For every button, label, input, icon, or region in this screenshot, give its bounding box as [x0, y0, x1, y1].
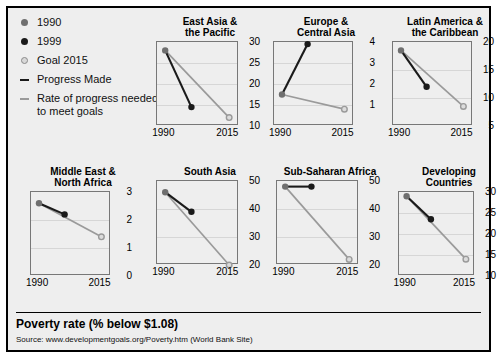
chart-title: Poverty rate (% below $1.08)	[16, 317, 481, 331]
point-1999	[423, 84, 429, 90]
panel-developing-countries: Developing Countries101520253019902015	[398, 166, 500, 291]
x-axis-tick-label: 2015	[216, 266, 238, 277]
progress-made-line	[407, 197, 431, 220]
y-axis-tick-label: 3	[112, 186, 132, 197]
plot-area: 510152019902015	[392, 41, 498, 141]
legend-item-goal-2015: Goal 2015	[16, 54, 166, 67]
x-axis-tick-label: 1990	[269, 127, 291, 138]
plot-area: 101520253019902015	[156, 41, 264, 141]
dot-gray-icon	[16, 16, 32, 29]
goal-2015-point	[461, 104, 467, 110]
y-axis-tick-label: 10	[474, 92, 494, 103]
progress-made-line	[282, 44, 308, 94]
y-axis-tick-label: 15	[240, 99, 260, 110]
legend-item-label: 1999	[37, 35, 61, 48]
x-axis-tick-label: 1990	[152, 266, 174, 277]
progress-made-line	[39, 204, 65, 215]
point-1999	[188, 209, 194, 215]
x-axis-tick-label: 1990	[388, 127, 410, 138]
plot-frame	[276, 180, 358, 264]
panel-sub-saharan-africa: Sub-Saharan Africa2030405019902015	[276, 166, 384, 280]
plot-frame	[398, 191, 474, 275]
plot-frame	[156, 41, 238, 125]
legend-item-rate-of-progress: Rate of progress needed to meet goals	[16, 92, 166, 117]
panel-middle-east-north-africa: Middle East & North Africa012319902015	[30, 166, 136, 291]
y-axis-tick-label: 50	[240, 175, 260, 186]
point-1990	[162, 189, 168, 195]
panel-south-asia: South Asia2030405019902015	[156, 166, 264, 280]
plot-frame	[273, 41, 353, 125]
y-axis-tick-label: 15	[474, 64, 494, 75]
y-axis-tick-label: 1	[355, 99, 375, 110]
needed-progress-line	[282, 95, 344, 110]
needed-progress-line	[401, 51, 463, 107]
panel-europe-central-asia: Europe & Central Asia123419902015	[273, 16, 379, 141]
point-1990	[282, 184, 288, 190]
y-axis-tick-label: 1	[112, 242, 132, 253]
y-axis-tick-label: 30	[476, 186, 496, 197]
y-axis-tick-label: 50	[360, 175, 380, 186]
point-1990	[398, 48, 404, 54]
legend-item-label: Progress Made	[37, 73, 112, 86]
y-axis-tick-label: 25	[476, 207, 496, 218]
plot-frame	[30, 191, 110, 275]
dash-gray-icon	[16, 92, 32, 105]
y-axis-tick-label: 20	[240, 78, 260, 89]
panel-east-asia-the-pacific: East Asia & the Pacific10152025301990201…	[156, 16, 264, 141]
y-axis-tick-label: 25	[240, 57, 260, 68]
progress-made-line	[165, 192, 191, 212]
y-axis-tick-label: 4	[355, 36, 375, 47]
plot-area: 2030405019902015	[156, 180, 264, 280]
y-axis-tick-label: 30	[360, 231, 380, 242]
y-axis-tick-label: 40	[360, 203, 380, 214]
y-axis-tick-label: 2	[355, 78, 375, 89]
needed-progress-line	[285, 187, 349, 260]
legend-item-label: Goal 2015	[37, 54, 88, 67]
y-axis-tick-label: 10	[240, 120, 260, 131]
point-1990	[403, 193, 409, 199]
point-1990	[36, 200, 42, 206]
plot-area: 012319902015	[30, 191, 136, 291]
x-axis-tick-label: 2015	[88, 277, 110, 288]
y-axis-tick-label: 10	[476, 270, 496, 281]
chart-footer: Poverty rate (% below $1.08) Source: www…	[16, 312, 481, 344]
x-axis-tick-label: 1990	[152, 127, 174, 138]
plot-area: 101520253019902015	[398, 191, 500, 291]
dash-black-icon	[16, 73, 32, 86]
needed-progress-line	[165, 51, 229, 118]
progress-made-line	[401, 51, 427, 87]
plot-area: 123419902015	[273, 41, 379, 141]
progress-made-line	[165, 51, 191, 108]
y-axis-tick-label: 30	[240, 231, 260, 242]
x-axis-tick-label: 2015	[216, 127, 238, 138]
point-1990	[162, 48, 168, 54]
y-axis-tick-label: 3	[355, 57, 375, 68]
goal-2015-point	[346, 257, 352, 263]
point-1999	[188, 104, 194, 110]
point-1999	[304, 41, 310, 47]
legend-item-label: 1990	[37, 16, 61, 29]
x-axis-tick-label: 2015	[331, 127, 353, 138]
needed-progress-line	[165, 192, 229, 265]
y-axis-tick-label: 0	[112, 270, 132, 281]
series-overlay	[157, 181, 239, 265]
x-axis-tick-label: 2015	[450, 127, 472, 138]
y-axis-tick-label: 20	[360, 259, 380, 270]
series-overlay	[399, 192, 475, 276]
footer-divider	[16, 312, 481, 313]
x-axis-tick-label: 1990	[394, 277, 416, 288]
goal-2015-point	[226, 115, 232, 121]
goal-2015-point	[463, 257, 469, 263]
point-1999	[428, 216, 434, 222]
legend-item-label: Rate of progress needed to meet goals	[37, 92, 166, 117]
legend-item-1999: 1999	[16, 35, 166, 48]
y-axis-tick-label: 5	[474, 120, 494, 131]
point-1990	[279, 92, 285, 98]
goal-2015-point	[99, 234, 105, 240]
point-1999	[308, 184, 314, 190]
y-axis-tick-label: 20	[474, 36, 494, 47]
x-axis-tick-label: 2015	[453, 277, 475, 288]
y-axis-tick-label: 40	[240, 203, 260, 214]
goal-2015-point	[342, 107, 348, 113]
plot-frame	[156, 180, 238, 264]
